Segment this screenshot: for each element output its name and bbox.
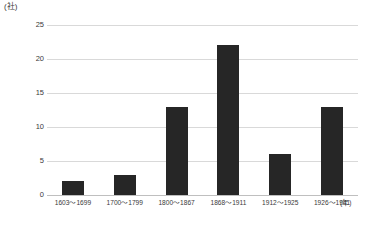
x-tick-label: 1700〜1799 xyxy=(99,199,151,207)
bar xyxy=(269,154,291,195)
bar xyxy=(114,175,136,195)
bar xyxy=(62,181,84,195)
x-axis-unit-label: (年) xyxy=(340,199,351,207)
gridline-25 xyxy=(47,25,358,26)
gridline-10 xyxy=(47,127,358,128)
gridline-15 xyxy=(47,93,358,94)
y-tick-label-10: 10 xyxy=(20,123,44,131)
x-tick-label: 1603〜1699 xyxy=(47,199,99,207)
y-tick-label-20: 20 xyxy=(20,55,44,63)
gridline-0 xyxy=(47,195,358,196)
gridline-5 xyxy=(47,161,358,162)
x-tick-label: 1800〜1867 xyxy=(151,199,203,207)
gridline-20 xyxy=(47,59,358,60)
y-axis-unit-label: (社) xyxy=(4,2,17,12)
bar xyxy=(166,107,188,195)
y-tick-label-25: 25 xyxy=(20,21,44,29)
y-tick-label-0: 0 xyxy=(20,191,44,199)
x-tick-label: 1868〜1911 xyxy=(203,199,255,207)
bar xyxy=(217,45,239,195)
x-tick-label: 1912〜1925 xyxy=(254,199,306,207)
y-tick-label-5: 5 xyxy=(20,157,44,165)
bar-chart: (社) 0510152025 1603〜16991700〜17991800〜18… xyxy=(0,0,368,225)
bar xyxy=(321,107,343,195)
y-tick-label-15: 15 xyxy=(20,89,44,97)
plot-area xyxy=(47,25,358,195)
